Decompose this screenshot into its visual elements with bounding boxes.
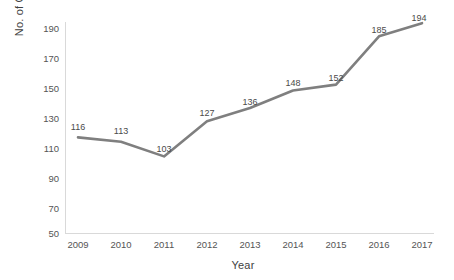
x-axis-title: Year: [213, 258, 273, 272]
y-axis-title: No. of Committees: [12, 0, 26, 64]
y-tick-label-50: 50: [33, 229, 59, 239]
x-tick-label-2011: 2011: [143, 239, 185, 250]
point-label-2014: 148: [278, 78, 308, 88]
series-line-committees: [78, 23, 422, 156]
point-label-2011: 103: [149, 144, 179, 154]
x-tick-label-2009: 2009: [57, 239, 99, 250]
line-chart: 190 170 150 130 110 90 70 50 2009 2010 2…: [0, 0, 454, 280]
x-tick-label-2015: 2015: [315, 239, 357, 250]
point-label-2016: 185: [364, 25, 394, 35]
point-label-2017: 194: [404, 13, 434, 23]
y-tick-label-70: 70: [33, 204, 59, 214]
point-label-2010: 113: [106, 126, 136, 136]
y-tick-label-170: 170: [33, 54, 59, 64]
chart-plot-area: [0, 0, 454, 280]
point-label-2015: 152: [321, 73, 351, 83]
point-label-2013: 136: [235, 97, 265, 107]
x-tick-label-2013: 2013: [229, 239, 271, 250]
x-tick-label-2014: 2014: [272, 239, 314, 250]
y-tick-label-110: 110: [33, 144, 59, 154]
x-tick-label-2010: 2010: [100, 239, 142, 250]
x-tick-label-2017: 2017: [401, 239, 443, 250]
y-tick-label-150: 150: [33, 84, 59, 94]
y-tick-label-90: 90: [33, 174, 59, 184]
point-label-2012: 127: [192, 108, 222, 118]
x-tick-label-2016: 2016: [358, 239, 400, 250]
y-tick-label-130: 130: [33, 114, 59, 124]
y-tick-label-190: 190: [33, 24, 59, 34]
x-tick-label-2012: 2012: [186, 239, 228, 250]
point-label-2009: 116: [63, 122, 93, 132]
